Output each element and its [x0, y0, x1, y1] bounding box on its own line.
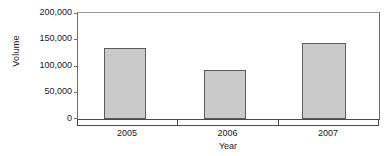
bar-2006 — [204, 70, 246, 119]
y-tick-mark — [74, 13, 78, 14]
plot-area — [77, 12, 380, 120]
y-tick-label: 100,000 — [20, 61, 72, 70]
category-axis-rule — [77, 125, 379, 126]
bar-2007 — [302, 43, 346, 119]
y-axis-tick-labels: 200,000 150,000 100,000 50,000 0 — [20, 0, 72, 156]
x-tick-label-2007: 2007 — [278, 128, 378, 139]
bar-2005 — [104, 48, 146, 119]
bar-chart: Volume 200,000 150,000 100,000 50,000 0 … — [0, 0, 390, 156]
y-tick-mark — [74, 39, 78, 40]
x-tick-label-2005: 2005 — [77, 128, 177, 139]
x-tick-label-2006: 2006 — [177, 128, 278, 139]
y-tick-label: 150,000 — [20, 34, 72, 43]
y-tick-label: 50,000 — [20, 87, 72, 96]
y-tick-label: 200,000 — [20, 8, 72, 17]
y-tick-label: 0 — [20, 114, 72, 123]
x-axis-title: Year — [77, 141, 379, 152]
y-tick-mark — [74, 66, 78, 67]
y-tick-mark — [74, 92, 78, 93]
